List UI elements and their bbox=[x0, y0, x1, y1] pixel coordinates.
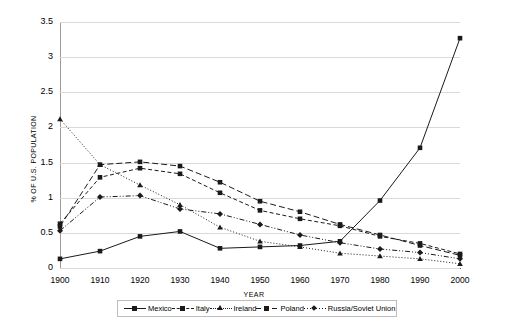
data-point bbox=[178, 164, 183, 169]
data-point bbox=[257, 221, 263, 227]
data-point bbox=[138, 160, 143, 165]
x-tick-label: 1990 bbox=[398, 276, 442, 285]
x-tick-label: 1900 bbox=[38, 276, 82, 285]
plot-area bbox=[60, 22, 460, 268]
legend-label: Mexico bbox=[148, 304, 172, 313]
y-tick-label: 3.5 bbox=[0, 17, 53, 26]
data-point bbox=[218, 190, 223, 195]
x-tick-label: 2000 bbox=[438, 276, 482, 285]
x-tick-label: 1940 bbox=[198, 276, 242, 285]
x-tick-label: 1970 bbox=[318, 276, 362, 285]
legend-swatch-icon bbox=[256, 304, 278, 313]
data-point bbox=[258, 199, 263, 204]
data-point bbox=[57, 116, 63, 121]
legend-swatch-icon bbox=[124, 304, 146, 313]
data-point bbox=[417, 250, 423, 256]
data-point bbox=[338, 222, 343, 227]
data-point bbox=[217, 224, 223, 229]
legend-swatch-icon bbox=[304, 304, 326, 313]
y-axis-title-wrap: % OF U.S. POPULATION bbox=[10, 60, 32, 220]
data-point bbox=[137, 182, 143, 187]
legend-item-italy[interactable]: Italy bbox=[172, 304, 210, 313]
data-point bbox=[178, 172, 183, 177]
gridline bbox=[60, 268, 460, 269]
legend-item-russia-soviet-union[interactable]: Russia/Soviet Union bbox=[304, 304, 396, 313]
x-tick-label: 1910 bbox=[78, 276, 122, 285]
legend-swatch-icon bbox=[210, 304, 232, 313]
data-point bbox=[138, 234, 143, 239]
x-tick-label: 1930 bbox=[158, 276, 202, 285]
data-point bbox=[98, 162, 103, 167]
data-point bbox=[418, 243, 423, 248]
data-point bbox=[218, 180, 223, 185]
x-axis-title: YEAR bbox=[0, 291, 508, 298]
data-point bbox=[178, 229, 183, 234]
data-point bbox=[218, 246, 223, 251]
data-point bbox=[138, 166, 143, 171]
x-tick-label: 1920 bbox=[118, 276, 162, 285]
legend-label: Ireland bbox=[234, 304, 257, 313]
legend-item-poland[interactable]: Poland bbox=[256, 304, 303, 313]
x-tick-label: 1950 bbox=[238, 276, 282, 285]
series-layer bbox=[60, 22, 460, 268]
legend-swatch-icon bbox=[172, 304, 194, 313]
y-tick-label: 0.5 bbox=[0, 228, 53, 237]
data-point bbox=[98, 249, 103, 254]
data-point bbox=[298, 209, 303, 214]
data-point bbox=[258, 208, 263, 213]
y-axis-title: % OF U.S. POPULATION bbox=[30, 99, 38, 219]
data-point bbox=[378, 233, 383, 238]
legend-item-ireland[interactable]: Ireland bbox=[210, 304, 257, 313]
data-point bbox=[378, 198, 383, 203]
legend-item-mexico[interactable]: Mexico bbox=[124, 304, 172, 313]
data-point bbox=[418, 146, 423, 151]
data-point bbox=[298, 217, 303, 222]
data-point bbox=[417, 256, 423, 261]
data-point bbox=[297, 232, 303, 238]
data-point bbox=[257, 238, 263, 243]
legend-label: Italy bbox=[196, 304, 210, 313]
chart-legend: MexicoItalyIrelandPolandRussia/Soviet Un… bbox=[117, 300, 397, 317]
x-tick-label: 1980 bbox=[358, 276, 402, 285]
x-tick-label: 1960 bbox=[278, 276, 322, 285]
data-point bbox=[458, 36, 463, 41]
data-point bbox=[137, 193, 143, 199]
data-point bbox=[98, 175, 103, 180]
legend-label: Poland bbox=[280, 304, 303, 313]
data-point bbox=[217, 211, 223, 217]
legend-label: Russia/Soviet Union bbox=[328, 304, 396, 313]
line-chart: 00.511.522.533.5 % OF U.S. POPULATION 19… bbox=[0, 0, 508, 327]
data-point bbox=[58, 257, 63, 262]
data-point bbox=[377, 246, 383, 252]
series-ireland bbox=[57, 116, 463, 266]
y-tick-label: 0 bbox=[0, 263, 53, 272]
data-point bbox=[258, 245, 263, 250]
